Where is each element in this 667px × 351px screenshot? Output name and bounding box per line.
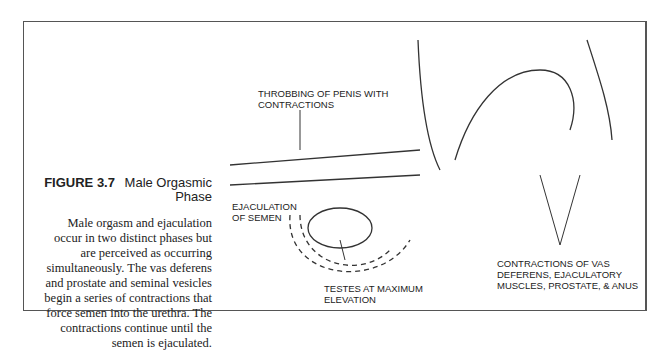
schematic-lines (230, 40, 612, 272)
label-contractions: Contractions of vas deferens, ejaculator… (497, 258, 657, 291)
label-testes: Testes at maximum elevation (324, 283, 434, 305)
label-ejaculation: Ejaculation of semen (232, 201, 312, 223)
label-throbbing: Throbbing of penis with contractions (258, 88, 408, 110)
leader-lines (300, 110, 580, 260)
